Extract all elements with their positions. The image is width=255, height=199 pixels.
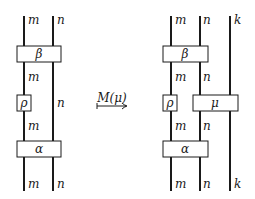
right-label-top-m: m: [175, 13, 186, 27]
right-label-mid-n-upper: n: [203, 70, 211, 84]
left-box-alpha-label: α: [35, 142, 43, 156]
left-label-bottom-m: m: [28, 177, 39, 191]
right-label-bottom-k: k: [234, 177, 241, 191]
right-box-beta-label: β: [181, 47, 189, 61]
right-label-mid-m-upper: m: [175, 70, 186, 84]
maps-to-arrow: M(μ): [96, 91, 127, 109]
right-label-mid-n-lower: n: [203, 119, 211, 133]
right-label-bottom-n: n: [203, 177, 211, 191]
right-box-rho-label: ρ: [165, 96, 173, 110]
right-label-top-k: k: [234, 13, 241, 27]
left-box-beta-label: β: [35, 47, 43, 61]
left-label-mid-m-upper: m: [28, 70, 39, 84]
left-label-top-n: n: [57, 13, 65, 27]
right-box-mu-label: μ: [211, 96, 219, 110]
left-box-rho-label: ρ: [19, 96, 27, 110]
right-diagram: β ρ μ α m n k m n m n m n k: [163, 13, 241, 191]
left-label-bottom-n: n: [57, 177, 65, 191]
left-label-mid-m-lower: m: [28, 119, 39, 133]
left-label-top-m: m: [28, 13, 39, 27]
left-diagram: β ρ α m n m n m m n: [17, 13, 65, 191]
right-label-mid-m-lower: m: [175, 119, 186, 133]
string-diagram-figure: β ρ α m n m n m m n M(μ) β ρ μ α m n k m: [0, 0, 255, 199]
right-box-alpha-label: α: [181, 142, 189, 156]
right-label-bottom-m: m: [175, 177, 186, 191]
right-label-top-n: n: [203, 13, 211, 27]
left-label-mid-n: n: [57, 96, 65, 110]
